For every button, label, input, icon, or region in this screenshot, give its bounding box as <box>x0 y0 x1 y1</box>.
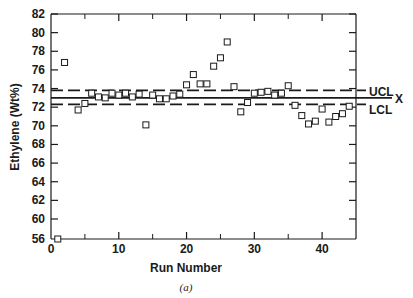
data-point <box>224 39 230 45</box>
data-point <box>136 91 142 97</box>
y-tick-label: 62 <box>32 193 46 207</box>
data-point <box>339 111 345 117</box>
data-point <box>95 94 101 100</box>
data-point <box>116 92 122 98</box>
y-axis-title: Ethylene (Wt%) <box>8 83 22 170</box>
data-point <box>251 90 257 96</box>
control-chart: 56606264666870727476788082010203040 Run … <box>0 0 413 298</box>
data-point <box>190 72 196 78</box>
data-point <box>346 103 352 109</box>
data-point <box>265 88 271 94</box>
data-point <box>82 100 88 106</box>
y-tick-label: 76 <box>32 63 46 77</box>
data-point <box>217 55 223 61</box>
ucl-label: UCL <box>369 85 394 99</box>
data-point <box>231 84 237 90</box>
data-point <box>278 90 284 96</box>
x-tick-label: 40 <box>315 242 329 256</box>
y-tick-label: 68 <box>32 137 46 151</box>
x-tick-label: 0 <box>48 242 55 256</box>
data-point <box>143 122 149 128</box>
center-line-label: X <box>395 92 403 106</box>
x-tick-label: 30 <box>248 242 262 256</box>
data-point <box>102 95 108 101</box>
data-point <box>150 92 156 98</box>
data-point <box>62 59 68 65</box>
y-tick-label: 60 <box>32 212 46 226</box>
data-point <box>245 100 251 106</box>
y-tick-label: 74 <box>32 82 46 96</box>
y-tick-label: 70 <box>32 119 46 133</box>
data-point <box>272 92 278 98</box>
data-point <box>170 93 176 99</box>
data-point <box>333 114 339 120</box>
x-tick-label: 10 <box>112 242 126 256</box>
lcl-label: LCL <box>369 103 392 117</box>
data-point <box>238 109 244 115</box>
data-point <box>75 107 81 113</box>
data-point <box>123 90 129 96</box>
data-point <box>129 94 135 100</box>
data-point <box>299 113 305 119</box>
data-point <box>326 119 332 125</box>
data-point <box>184 82 190 88</box>
data-point <box>306 121 312 127</box>
data-point <box>89 90 95 96</box>
y-tick-label: 72 <box>32 100 46 114</box>
data-point <box>204 81 210 87</box>
data-point <box>197 81 203 87</box>
data-point <box>177 91 183 97</box>
data-point <box>312 118 318 124</box>
y-tick-label: 56 <box>32 232 46 246</box>
data-point <box>319 106 325 112</box>
data-point <box>285 83 291 89</box>
y-tick-label: 64 <box>32 175 46 189</box>
data-point <box>163 96 169 102</box>
x-axis-title: Run Number <box>150 261 222 275</box>
data-point <box>211 63 217 69</box>
plot-axes: 56606264666870727476788082010203040 <box>32 7 356 256</box>
data-points <box>55 39 352 242</box>
data-point <box>55 236 61 242</box>
data-point <box>258 89 264 95</box>
x-tick-label: 20 <box>180 242 194 256</box>
y-tick-label: 80 <box>32 26 46 40</box>
data-point <box>156 96 162 102</box>
y-tick-label: 78 <box>32 44 46 58</box>
data-point <box>292 102 298 108</box>
data-point <box>109 90 115 96</box>
figure-caption: (a) <box>180 281 193 294</box>
y-tick-label: 82 <box>32 7 46 21</box>
y-tick-label: 66 <box>32 156 46 170</box>
